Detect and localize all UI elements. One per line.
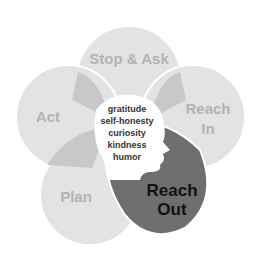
value-kindness: kindness <box>107 140 146 150</box>
label-reach-in-1: Reach <box>185 100 230 117</box>
label-reach-out-1: Reach <box>146 181 197 200</box>
label-plan: Plan <box>60 188 92 205</box>
five-petal-diagram: Stop & Ask Act Reach In Plan Reach Out g… <box>0 0 258 257</box>
label-reach-in-2: In <box>201 120 214 137</box>
label-reach-out-2: Out <box>157 200 187 219</box>
value-self-honesty: self-honesty <box>100 116 153 126</box>
label-act: Act <box>36 108 60 125</box>
value-gratitude: gratitude <box>108 104 147 114</box>
label-stop-ask: Stop & Ask <box>89 50 169 67</box>
value-curiosity: curiosity <box>108 128 146 138</box>
value-humor: humor <box>113 152 141 162</box>
